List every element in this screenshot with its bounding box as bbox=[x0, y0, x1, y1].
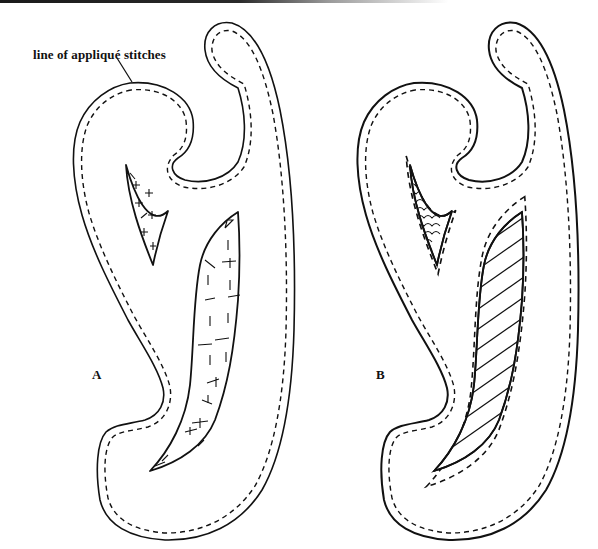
panel-b-outline bbox=[357, 23, 578, 541]
panel-a-label: A bbox=[92, 367, 101, 383]
panel-a bbox=[73, 23, 294, 541]
panel-b-label: B bbox=[376, 367, 385, 383]
panel-a-outline bbox=[73, 23, 294, 541]
callout-label: line of appliqué stitches bbox=[33, 47, 166, 63]
applique-diagram bbox=[0, 0, 598, 549]
panel-b bbox=[357, 23, 578, 541]
